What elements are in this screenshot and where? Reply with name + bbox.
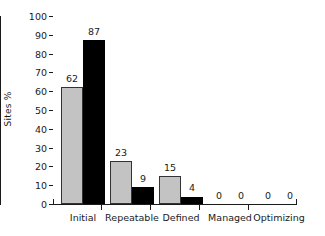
value-label-initial-series-2: 87: [88, 26, 100, 37]
value-label-defined-series-1: 15: [164, 162, 176, 173]
value-label-repeatable-series-2: 9: [140, 173, 146, 184]
bar-initial-series-1: [61, 87, 83, 204]
y-axis-line: [0, 16, 1, 205]
y-axis-title: Sites %: [3, 79, 13, 139]
value-label-managed-series-1: 0: [216, 190, 222, 201]
bar-repeatable-series-1: [110, 161, 132, 204]
bars-layer: [53, 16, 297, 204]
value-label-defined-series-2: 4: [189, 182, 195, 193]
x-tick-sep-4: [248, 205, 249, 210]
x-axis-label-optimizing: Optimizing: [253, 212, 304, 223]
x-axis-label-managed: Managed: [208, 212, 252, 223]
y-tick-label: 30: [35, 142, 47, 153]
value-label-optimizing-series-1: 0: [265, 190, 271, 201]
y-tick-label: 0: [41, 199, 47, 210]
x-tick-sep-2: [150, 205, 151, 210]
y-tick-label: 40: [35, 123, 47, 134]
value-label-initial-series-1: 62: [66, 73, 78, 84]
bar-defined-series-2: [181, 197, 203, 205]
x-axis-line: [53, 204, 297, 205]
y-tick-label: 60: [35, 86, 47, 97]
y-tick-label: 50: [35, 105, 47, 116]
x-axis-label-repeatable: Repeatable: [105, 212, 159, 223]
value-label-managed-series-2: 0: [238, 190, 244, 201]
y-tick-label: 10: [35, 180, 47, 191]
x-axis-label-initial: Initial: [70, 212, 96, 223]
x-axis-label-defined: Defined: [162, 212, 199, 223]
value-label-optimizing-series-2: 0: [287, 190, 293, 201]
bar-chart: Sites % 100 90 80 70 60 50 40 30 20 10: [0, 0, 325, 236]
y-tick-label: 80: [35, 48, 47, 59]
y-tick-label: 70: [35, 67, 47, 78]
x-tick-sep-3: [199, 205, 200, 210]
bar-defined-series-1: [159, 176, 181, 204]
x-tick-sep-1: [101, 205, 102, 210]
y-tick-label: 100: [29, 11, 47, 22]
bar-initial-series-2: [83, 40, 105, 204]
y-tick-label: 20: [35, 161, 47, 172]
y-tick-label: 90: [35, 29, 47, 40]
value-label-repeatable-series-1: 23: [115, 147, 127, 158]
bar-repeatable-series-2: [132, 187, 154, 204]
